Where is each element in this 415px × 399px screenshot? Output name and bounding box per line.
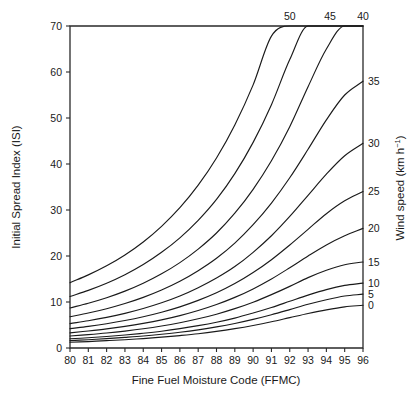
x-tick-label: 86 (174, 354, 186, 366)
curve-label-right: 0 (368, 299, 374, 311)
x-tick-label: 87 (192, 354, 204, 366)
y2-axis-title-main: Wind speed (km h (394, 148, 406, 241)
chart-figure: 05101520253035404550 8081828384858687888… (0, 0, 415, 399)
y-axis-title: Initial Spread Index (ISI) (10, 125, 22, 249)
x-tick-label: 81 (82, 354, 94, 366)
y-tick-label: 10 (50, 296, 62, 308)
y-tick-label: 60 (50, 66, 62, 78)
y2-axis-title-superscript: −1 (393, 139, 402, 148)
x-tick-label: 80 (64, 354, 76, 366)
curve-label-right: 20 (368, 222, 380, 234)
y2-axis-title-close: ) (394, 135, 406, 139)
y-tick-label: 30 (50, 204, 62, 216)
x-tick-label: 88 (211, 354, 223, 366)
x-tick-label: 83 (119, 354, 131, 366)
x-axis-title: Fine Fuel Moisture Code (FFMC) (132, 374, 301, 386)
y-tick-label: 70 (50, 20, 62, 32)
y-tick-label: 20 (50, 250, 62, 262)
curve-label-top: 45 (324, 10, 336, 22)
x-tick-label: 93 (302, 354, 314, 366)
x-tick-label: 92 (284, 354, 296, 366)
x-tick-label: 96 (357, 354, 369, 366)
curve-label-right: 15 (368, 256, 380, 268)
figure-background (0, 0, 415, 399)
x-tick-label: 82 (101, 354, 113, 366)
x-tick-label: 90 (247, 354, 259, 366)
x-tick-label: 85 (156, 354, 168, 366)
y2-axis-title: Wind speed (km h−1) (393, 135, 406, 240)
curve-label-right: 30 (368, 137, 380, 149)
curve-label-right: 10 (368, 277, 380, 289)
x-tick-label: 95 (339, 354, 351, 366)
x-tick-label: 94 (321, 354, 333, 366)
curve-label-top: 40 (357, 10, 369, 22)
curve-label-right: 35 (368, 75, 380, 87)
isi-ffmc-nomogram: 05101520253035404550 8081828384858687888… (0, 0, 415, 399)
y-tick-label: 40 (50, 158, 62, 170)
y-tick-label: 50 (50, 112, 62, 124)
curve-label-right: 25 (368, 185, 380, 197)
x-tick-label: 89 (229, 354, 241, 366)
x-axis-tick-labels: 8081828384858687888990919293949596 (64, 354, 369, 366)
y-tick-label: 0 (56, 342, 62, 354)
curve-label-right: 5 (368, 288, 374, 300)
x-tick-label: 91 (266, 354, 278, 366)
x-tick-label: 84 (137, 354, 149, 366)
curve-label-top: 50 (284, 10, 296, 22)
